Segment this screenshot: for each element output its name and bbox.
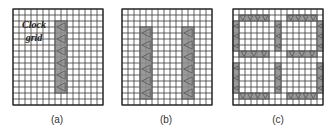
clock-grid-annotation: Clock grid (20, 20, 48, 43)
panel-c (232, 8, 324, 106)
clock-label-line2: grid (20, 33, 48, 43)
clock-grid-diagram-b (121, 8, 213, 106)
panel-a: Clock grid (12, 8, 104, 106)
caption-b: (b) (146, 114, 186, 125)
panel-b (121, 8, 213, 106)
clock-grid-diagram-c (232, 8, 324, 106)
caption-c: (c) (258, 114, 298, 125)
caption-a: (a) (37, 114, 77, 125)
clock-label-line1: Clock (20, 20, 48, 30)
